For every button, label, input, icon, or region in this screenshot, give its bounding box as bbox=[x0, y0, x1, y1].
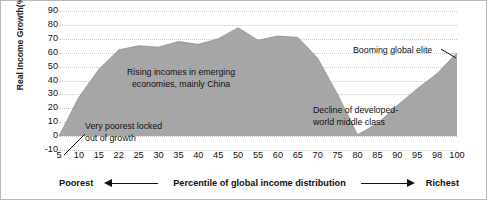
y-axis-title: Real Income Growth(%) bbox=[15, 0, 25, 97]
x-axis-tick-95: 95 bbox=[412, 151, 422, 160]
x-axis-tick-55: 55 bbox=[253, 151, 263, 160]
x-axis-tick-80: 80 bbox=[352, 151, 362, 160]
y-axis-tick-10: 10 bbox=[34, 118, 58, 127]
x-axis-tick-45: 45 bbox=[213, 151, 223, 160]
caption-richest: Richest bbox=[426, 178, 459, 188]
x-axis-tick-60: 60 bbox=[273, 151, 283, 160]
arrow-right-icon bbox=[357, 179, 415, 188]
caption-poorest: Poorest bbox=[59, 178, 93, 188]
y-axis-tick-90: 90 bbox=[34, 6, 58, 15]
y-axis-tick-70: 70 bbox=[34, 34, 58, 43]
x-axis-tick-22: 22 bbox=[114, 151, 124, 160]
x-axis-tick-30: 30 bbox=[153, 151, 163, 160]
chart-container: Real Income Growth(%) 908070605040302010… bbox=[0, 0, 487, 200]
x-axis-tick-25: 25 bbox=[133, 151, 143, 160]
x-axis-tick-50: 50 bbox=[233, 151, 243, 160]
annotation-decline-middle-class: Decline of developed- world middle class bbox=[313, 105, 398, 128]
x-axis-tick-90: 90 bbox=[392, 151, 402, 160]
x-axis-tick-98: 98 bbox=[432, 151, 442, 160]
x-axis-title: Percentile of global income distribution bbox=[173, 178, 346, 188]
x-axis-tick-70: 70 bbox=[313, 151, 323, 160]
x-axis-tick-5: 5 bbox=[56, 151, 61, 160]
x-axis-tick-40: 40 bbox=[193, 151, 203, 160]
x-axis-tick-65: 65 bbox=[293, 151, 303, 160]
y-axis-tick-30: 30 bbox=[34, 90, 58, 99]
y-axis-tick-50: 50 bbox=[34, 62, 58, 71]
x-axis-tick-35: 35 bbox=[173, 151, 183, 160]
x-axis-tick-75: 75 bbox=[332, 151, 342, 160]
y-axis-tick-60: 60 bbox=[34, 48, 58, 57]
x-axis-tick-labels: 5101522253035404550556065707580859095981… bbox=[59, 151, 457, 164]
x-axis-tick-15: 15 bbox=[94, 151, 104, 160]
annotation-rising-incomes: Rising incomes in emerging economies, ma… bbox=[127, 67, 235, 90]
y-axis-tick-0: 0 bbox=[34, 131, 58, 140]
x-axis-tick-85: 85 bbox=[372, 151, 382, 160]
annotation-booming-global-elite: Booming global elite bbox=[353, 45, 432, 57]
y-axis-tick-20: 20 bbox=[34, 104, 58, 113]
x-axis-tick-10: 10 bbox=[74, 151, 84, 160]
x-axis-tick-100: 100 bbox=[449, 151, 464, 160]
x-axis-caption-row: Poorest Percentile of global income dist… bbox=[59, 175, 459, 191]
annotation-very-poorest: Very poorest locked out of growth bbox=[85, 121, 162, 144]
y-axis-tick-neg10: -10 bbox=[34, 145, 58, 154]
arrow-left-icon bbox=[104, 179, 162, 188]
y-axis-tick-80: 80 bbox=[34, 20, 58, 29]
y-axis-tick-40: 40 bbox=[34, 76, 58, 85]
y-axis-tick-labels: 9080706050403020100-10 bbox=[34, 1, 58, 199]
